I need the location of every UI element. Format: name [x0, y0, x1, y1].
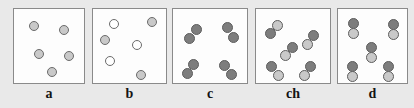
particle-dark-icon	[226, 69, 237, 80]
particle-light-icon	[64, 51, 74, 61]
particle-dark-icon	[383, 61, 394, 72]
panel-b	[92, 8, 167, 84]
particle-white-icon	[109, 19, 119, 29]
particle-dark-icon	[182, 68, 193, 79]
particle-dark-icon	[184, 33, 195, 44]
particle-light-icon	[299, 70, 310, 81]
panel-label-ch: ch	[255, 86, 331, 102]
particle-light-icon	[388, 29, 399, 40]
particle-dark-icon	[347, 61, 358, 72]
particle-gray-icon	[100, 35, 110, 45]
panel-ch	[255, 8, 331, 84]
particle-gray-icon	[147, 17, 157, 27]
particle-light-icon	[29, 21, 39, 31]
particle-light-icon	[302, 39, 313, 50]
particle-dark-icon	[388, 19, 399, 30]
particle-light-icon	[383, 71, 394, 82]
particle-light-icon	[280, 50, 291, 61]
panel-a	[13, 8, 85, 84]
particle-light-icon	[366, 52, 377, 63]
particle-layer	[173, 9, 247, 83]
panel-label-b: b	[92, 86, 167, 102]
panel-label-c: c	[172, 86, 248, 102]
particle-light-icon	[348, 28, 359, 39]
particle-layer	[14, 9, 84, 83]
panel-label-d: d	[337, 86, 408, 102]
particle-dark-icon	[366, 42, 377, 53]
particle-light-icon	[347, 71, 358, 82]
particle-white-icon	[132, 40, 142, 50]
panel-label-a: a	[13, 86, 85, 102]
particle-diagram-figure: abcchd	[0, 0, 414, 108]
particle-white-icon	[105, 56, 115, 66]
particle-layer	[93, 9, 166, 83]
panel-c	[172, 8, 248, 84]
particle-light-icon	[273, 70, 284, 81]
particle-light-icon	[47, 67, 57, 77]
particle-light-icon	[59, 25, 69, 35]
particle-dark-icon	[265, 28, 276, 39]
particle-layer	[338, 9, 407, 83]
particle-dark-icon	[222, 22, 233, 33]
particle-dark-icon	[348, 18, 359, 29]
particle-gray-icon	[136, 70, 146, 80]
panel-d	[337, 8, 408, 84]
particle-layer	[256, 9, 330, 83]
particle-light-icon	[34, 49, 44, 59]
particle-dark-icon	[228, 32, 239, 43]
